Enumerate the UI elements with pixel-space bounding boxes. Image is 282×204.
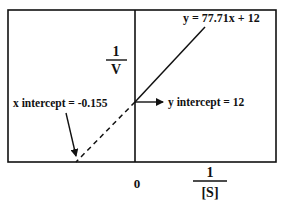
plot-frame — [8, 10, 276, 162]
y-label-numerator: 1 — [113, 44, 120, 59]
origin-label: 0 — [134, 176, 141, 191]
x-intercept-label: x intercept = -0.155 — [13, 97, 108, 110]
y-label-denominator: V — [111, 62, 121, 77]
x-intercept-arrow — [66, 113, 76, 156]
x-label-denominator: [S] — [201, 185, 218, 200]
y-intercept-label: y intercept = 12 — [168, 96, 245, 109]
lineweaver-burk-chart: y = 77.71x + 12 1 V x intercept = -0.155… — [0, 0, 282, 204]
solid-regression-line — [135, 27, 205, 102]
dashed-extrapolation-line — [76, 102, 135, 162]
x-label-numerator: 1 — [207, 165, 214, 180]
equation-label: y = 77.71x + 12 — [183, 11, 260, 25]
